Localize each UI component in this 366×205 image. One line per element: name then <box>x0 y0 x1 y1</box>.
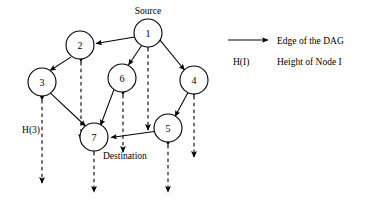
source-label: Source <box>135 6 161 16</box>
node-2[interactable]: 2 <box>66 31 94 59</box>
node-label: 2 <box>78 40 83 51</box>
legend-edge-label: Edge of the DAG <box>277 36 344 46</box>
edge-1-to-2 <box>96 37 135 44</box>
edge-1-to-6 <box>129 45 142 65</box>
legend-height-label: Height of Node I <box>277 57 342 67</box>
node-label: 4 <box>192 75 197 86</box>
node-3[interactable]: 3 <box>28 68 56 96</box>
edge-2-to-3 <box>50 57 71 71</box>
legend: Edge of the DAG H(I) Height of Node I <box>228 36 344 69</box>
node-1[interactable]: 1 <box>134 19 162 47</box>
dag-canvas: 1 2 3 4 5 6 7 Source Destination H( <box>0 0 366 205</box>
height-3-label: H(3) <box>22 125 40 136</box>
dag-figure: 1 2 3 4 5 6 7 Source Destination H( <box>0 0 366 205</box>
edge-6-to-7 <box>101 90 115 126</box>
edge-3-to-7 <box>51 93 86 126</box>
edge-4-to-5 <box>175 93 188 117</box>
dag-nodes-group: 1 2 3 4 5 6 7 <box>28 19 208 151</box>
node-label: 6 <box>120 73 125 84</box>
node-label: 5 <box>166 123 171 134</box>
node-label: 3 <box>40 77 45 88</box>
node-6[interactable]: 6 <box>108 64 136 92</box>
edge-5-to-7 <box>111 132 154 138</box>
edge-1-to-4 <box>160 40 185 70</box>
legend-height-symbol: H(I) <box>233 57 249 68</box>
node-5[interactable]: 5 <box>154 114 182 142</box>
node-label: 7 <box>92 132 97 143</box>
node-4[interactable]: 4 <box>180 66 208 94</box>
destination-label: Destination <box>103 151 147 161</box>
node-7[interactable]: 7 <box>80 123 108 151</box>
node-label: 1 <box>146 28 151 39</box>
